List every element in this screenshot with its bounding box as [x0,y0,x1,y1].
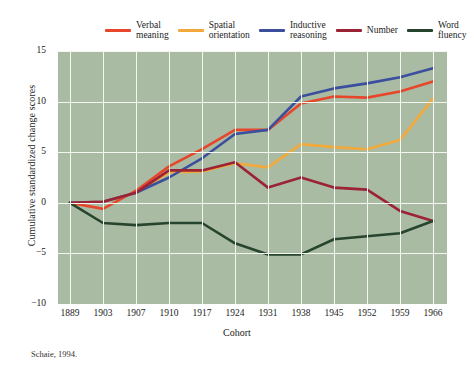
legend-item[interactable]: Number [336,25,398,36]
legend-item[interactable]: Verbal meaning [105,20,169,41]
legend-swatch-icon [336,29,362,32]
gridline-vertical [235,51,236,304]
gridline-vertical [268,51,269,304]
gridline-horizontal [58,51,447,52]
gridline-horizontal [58,102,447,103]
gridline-vertical [169,51,170,304]
series-lines [58,51,447,304]
legend-swatch-icon [259,29,285,32]
legend-item[interactable]: Inductive reasoning [259,20,327,41]
legend-label: Inductive reasoning [290,20,327,41]
series-line [70,162,433,221]
gridline-vertical [367,51,368,304]
legend-label: Word fluency [438,20,467,41]
gridline-vertical [103,51,104,304]
source-note: Schaie, 1994. [31,349,77,359]
figure-container: Verbal meaningSpatial orientationInducti… [0,0,474,379]
gridline-vertical [301,51,302,304]
chart-legend: Verbal meaningSpatial orientationInducti… [105,16,470,44]
legend-item[interactable]: Word fluency [407,20,467,41]
gridline-vertical [400,51,401,304]
gridline-horizontal [58,253,447,254]
gridline-vertical [136,51,137,304]
series-line [70,68,433,203]
series-line [70,99,433,203]
x-axis-ticks: 1889190319071910191719241931193819451952… [0,308,474,324]
series-line [70,203,433,255]
gridline-horizontal [58,203,447,204]
legend-label: Verbal meaning [136,20,169,41]
gridline-vertical [202,51,203,304]
legend-item[interactable]: Spatial orientation [178,20,250,41]
y-tick-label: −10 [12,298,46,308]
legend-label: Spatial orientation [209,20,250,41]
legend-label: Number [367,25,398,36]
legend-swatch-icon [105,29,131,32]
y-axis-title: Cumulative standardized change scores [26,51,37,281]
x-axis-title: Cohort [0,327,474,338]
plot-area [58,51,447,304]
legend-swatch-icon [178,29,204,32]
gridline-vertical [433,51,434,304]
gridline-vertical [70,51,71,304]
gridline-horizontal [58,152,447,153]
legend-swatch-icon [407,29,433,32]
gridline-vertical [334,51,335,304]
x-tick-label: 1966 [411,308,455,318]
